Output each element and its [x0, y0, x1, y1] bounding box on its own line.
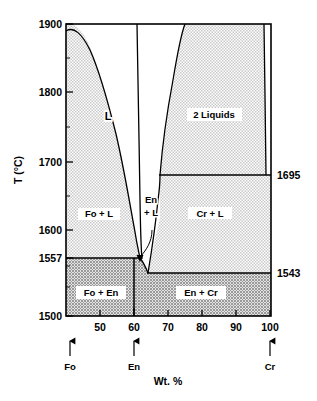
x-tick-label-50: 50 [94, 321, 106, 333]
curve-enstatite-liquidus [137, 24, 142, 259]
x-tick-label-100: 100 [261, 321, 279, 333]
right-label-1543: 1543 [277, 267, 301, 279]
y-tick-label-1700: 1700 [39, 156, 63, 168]
region-label-en-plus-l-line2: + L [144, 207, 158, 218]
region-label-cr-plus-l: Cr + L [196, 208, 223, 219]
region-fill-fo-plus-l [66, 24, 140, 258]
x-tick-label-90: 90 [230, 321, 242, 333]
en-plus-l-leader-line [141, 230, 152, 256]
x-axis-title: Wt. % [154, 375, 183, 387]
endmember-label-fo: Fo [64, 361, 76, 372]
y-tick-label-1557: 1557 [39, 252, 63, 264]
region-label-en-plus-l-line1: En [145, 194, 157, 205]
y-axis-title: T (°C) [12, 156, 24, 184]
region-fill-cr-plus-l [148, 175, 271, 273]
x-tick-label-70: 70 [162, 321, 174, 333]
region-fill-two-liquids [160, 24, 266, 175]
region-label-fo-plus-l: Fo + L [85, 208, 113, 219]
phase-diagram-figure: 1900 1800 1700 1600 1557 1500 1695 1543 … [0, 0, 317, 401]
phase-diagram-svg: 1900 1800 1700 1600 1557 1500 1695 1543 … [0, 0, 317, 401]
y-tick-label-1800: 1800 [39, 86, 63, 98]
endmember-label-en: En [128, 361, 140, 372]
y-tick-label-1500: 1500 [39, 310, 63, 322]
region-label-liquid: L [105, 110, 112, 122]
region-label-two-liquids: 2 Liquids [193, 109, 235, 120]
y-tick-label-1600: 1600 [39, 224, 63, 236]
x-tick-label-60: 60 [128, 321, 140, 333]
endmember-label-cr: Cr [265, 361, 276, 372]
region-label-fo-plus-en: Fo + En [84, 287, 119, 298]
y-tick-label-1900: 1900 [39, 18, 63, 30]
endmember-arrows [70, 341, 270, 356]
right-label-1695: 1695 [277, 169, 301, 181]
x-tick-label-80: 80 [196, 321, 208, 333]
region-label-en-plus-cr: En + Cr [184, 287, 218, 298]
